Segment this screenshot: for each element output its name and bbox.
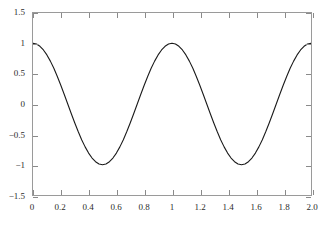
curve-svg xyxy=(33,13,311,195)
x-tick-label: 1 xyxy=(170,202,175,212)
y-tick-right xyxy=(306,74,311,75)
plot-frame xyxy=(32,12,312,196)
x-tick-bottom xyxy=(285,190,286,195)
x-tick-bottom xyxy=(229,190,230,195)
y-tick-label: −0.5 xyxy=(0,130,25,140)
plot-figure: 00.20.40.60.811.21.41.61.82.0 −1.5−1−0.5… xyxy=(0,0,330,232)
y-tick-label: 1.5 xyxy=(0,7,25,17)
y-tick-left xyxy=(33,197,38,198)
x-tick-label: 1.4 xyxy=(222,202,233,212)
x-tick-top xyxy=(257,13,258,18)
y-tick-label: 0.5 xyxy=(0,68,25,78)
y-tick-right xyxy=(306,136,311,137)
y-tick-left xyxy=(33,136,38,137)
y-tick-right xyxy=(306,44,311,45)
x-tick-label: 0 xyxy=(30,202,35,212)
y-tick-left xyxy=(33,166,38,167)
x-tick-top xyxy=(229,13,230,18)
x-tick-bottom xyxy=(201,190,202,195)
x-tick-label: 1.2 xyxy=(194,202,205,212)
y-tick-right xyxy=(306,105,311,106)
x-tick-top xyxy=(201,13,202,18)
y-tick-right xyxy=(306,166,311,167)
x-tick-bottom xyxy=(33,190,34,195)
y-tick-left xyxy=(33,74,38,75)
x-tick-bottom xyxy=(61,190,62,195)
x-tick-top xyxy=(89,13,90,18)
x-tick-top xyxy=(117,13,118,18)
x-tick-bottom xyxy=(89,190,90,195)
x-tick-bottom xyxy=(145,190,146,195)
cosine-curve xyxy=(33,43,311,164)
x-tick-label: 1.6 xyxy=(250,202,261,212)
x-tick-label: 0.6 xyxy=(110,202,121,212)
y-tick-right xyxy=(306,13,311,14)
y-tick-label: −1 xyxy=(0,160,25,170)
x-tick-top xyxy=(313,13,314,18)
y-tick-label: 0 xyxy=(0,99,25,109)
x-tick-label: 1.8 xyxy=(278,202,289,212)
x-tick-top xyxy=(145,13,146,18)
y-tick-left xyxy=(33,13,38,14)
x-tick-bottom xyxy=(173,190,174,195)
x-tick-top xyxy=(173,13,174,18)
y-tick-label: −1.5 xyxy=(0,191,25,201)
x-tick-bottom xyxy=(313,190,314,195)
x-tick-top xyxy=(285,13,286,18)
x-tick-label: 2.0 xyxy=(306,202,317,212)
y-tick-left xyxy=(33,105,38,106)
x-tick-bottom xyxy=(117,190,118,195)
x-tick-label: 0.8 xyxy=(138,202,149,212)
x-tick-label: 0.2 xyxy=(54,202,65,212)
x-tick-bottom xyxy=(257,190,258,195)
y-tick-left xyxy=(33,44,38,45)
y-tick-label: 1 xyxy=(0,38,25,48)
x-tick-label: 0.4 xyxy=(82,202,93,212)
y-tick-right xyxy=(306,197,311,198)
x-tick-top xyxy=(61,13,62,18)
